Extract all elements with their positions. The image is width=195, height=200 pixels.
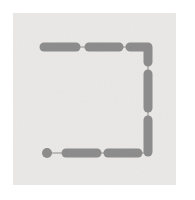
path-nodes-group — [42, 148, 52, 158]
start-node — [42, 148, 52, 158]
diagram-canvas — [0, 0, 195, 200]
capsule-path-diagram — [0, 0, 195, 200]
